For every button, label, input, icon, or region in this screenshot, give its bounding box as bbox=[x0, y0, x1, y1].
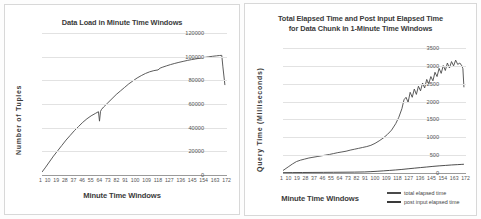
x-axis-tick: 46 bbox=[320, 175, 326, 181]
legend-swatch-icon bbox=[387, 201, 401, 203]
x-axis-tick: 127 bbox=[404, 175, 413, 181]
y-axis-label-left: Number of Tuples bbox=[15, 85, 22, 155]
x-axis-tick: 118 bbox=[393, 175, 401, 181]
y-axis-label-right: Query Time (Milliseconds) bbox=[256, 67, 263, 172]
y-axis-tick: 2000 bbox=[409, 99, 439, 105]
x-axis-tick: 64 bbox=[96, 177, 102, 183]
x-axis-tick: 10 bbox=[286, 175, 292, 181]
x-axis-tick: 64 bbox=[337, 175, 343, 181]
x-axis-label-right: Minute Time Windows bbox=[245, 194, 395, 203]
x-axis-tick: 10 bbox=[45, 177, 51, 183]
y-axis-tick: 80000 bbox=[174, 77, 204, 83]
legend-swatch-icon bbox=[387, 192, 401, 193]
x-axis-tick: 91 bbox=[122, 177, 128, 183]
y-axis-tick: 40000 bbox=[174, 125, 204, 131]
y-axis-tick: 2500 bbox=[409, 81, 439, 87]
y-axis-tick: 60000 bbox=[174, 101, 204, 107]
chart-legend-right: total elapsed timepost input elapsed tim… bbox=[387, 190, 459, 208]
y-axis-tick: 3500 bbox=[409, 45, 439, 51]
x-axis-tick: 154 bbox=[199, 177, 208, 183]
x-axis-tick: 28 bbox=[62, 177, 68, 183]
y-axis-tick: 3000 bbox=[409, 63, 439, 69]
x-axis-tick: 145 bbox=[188, 177, 197, 183]
x-axis-tick: 154 bbox=[438, 175, 447, 181]
x-axis-tick: 19 bbox=[53, 177, 59, 183]
chart-title-left: Data Load in Minute Time Windows bbox=[5, 18, 239, 28]
x-axis-tick: 163 bbox=[450, 175, 459, 181]
x-axis-ticks-right: 1101928374655647382911001091181271361451… bbox=[280, 175, 470, 181]
x-axis-tick: 100 bbox=[131, 177, 140, 183]
y-axis-tick: 1500 bbox=[409, 116, 439, 122]
chart-title-right-line1: Total Elapsed Time and Post Input Elapse… bbox=[245, 14, 476, 24]
x-axis-tick: 1 bbox=[39, 177, 42, 183]
legend-item[interactable]: total elapsed time bbox=[387, 190, 459, 196]
chart-panel-elapsed-time: Total Elapsed Time and Post Input Elapse… bbox=[244, 3, 477, 216]
x-axis-tick: 145 bbox=[427, 175, 436, 181]
y-axis-tick: 500 bbox=[409, 152, 439, 158]
x-axis-tick: 1 bbox=[280, 175, 283, 181]
x-axis-ticks-left: 1101928374655647382911001091181271361451… bbox=[39, 177, 231, 183]
x-axis-tick: 82 bbox=[114, 177, 120, 183]
x-axis-tick: 37 bbox=[71, 177, 77, 183]
y-axis-tick: 1000 bbox=[409, 134, 439, 140]
x-axis-tick: 73 bbox=[105, 177, 111, 183]
x-axis-tick: 172 bbox=[461, 175, 470, 181]
chart-title-right: Total Elapsed Time and Post Input Elapse… bbox=[245, 14, 476, 33]
x-axis-tick: 28 bbox=[303, 175, 309, 181]
x-axis-tick: 136 bbox=[176, 177, 185, 183]
x-axis-tick: 163 bbox=[211, 177, 220, 183]
chart-title-right-line2: for Data Chunk in 1-Minute Time Windows bbox=[245, 24, 476, 34]
figure-root: Data Load in Minute Time Windows Number … bbox=[0, 0, 481, 219]
x-axis-tick: 118 bbox=[154, 177, 162, 183]
y-axis-tick: 100000 bbox=[174, 54, 204, 60]
y-axis-tick: 120000 bbox=[174, 30, 204, 36]
x-axis-tick: 82 bbox=[354, 175, 360, 181]
x-axis-tick: 172 bbox=[222, 177, 231, 183]
legend-label: total elapsed time bbox=[404, 190, 446, 196]
y-axis-tick: 20000 bbox=[174, 148, 204, 154]
x-axis-tick: 109 bbox=[142, 177, 151, 183]
x-axis-tick: 73 bbox=[345, 175, 351, 181]
legend-label: post input elapsed time bbox=[404, 199, 459, 205]
x-axis-tick: 91 bbox=[362, 175, 368, 181]
x-axis-tick: 100 bbox=[371, 175, 380, 181]
x-axis-tick: 37 bbox=[311, 175, 317, 181]
x-axis-tick: 136 bbox=[416, 175, 425, 181]
x-axis-tick: 127 bbox=[165, 177, 174, 183]
chart-panel-data-load: Data Load in Minute Time Windows Number … bbox=[4, 4, 240, 215]
x-axis-tick: 46 bbox=[79, 177, 85, 183]
x-axis-tick: 55 bbox=[328, 175, 334, 181]
x-axis-label-left: Minute Time Windows bbox=[5, 191, 239, 200]
data-series-line bbox=[42, 55, 225, 172]
x-axis-tick: 55 bbox=[88, 177, 94, 183]
legend-item[interactable]: post input elapsed time bbox=[387, 199, 459, 205]
x-axis-tick: 19 bbox=[294, 175, 300, 181]
x-axis-tick: 109 bbox=[382, 175, 391, 181]
